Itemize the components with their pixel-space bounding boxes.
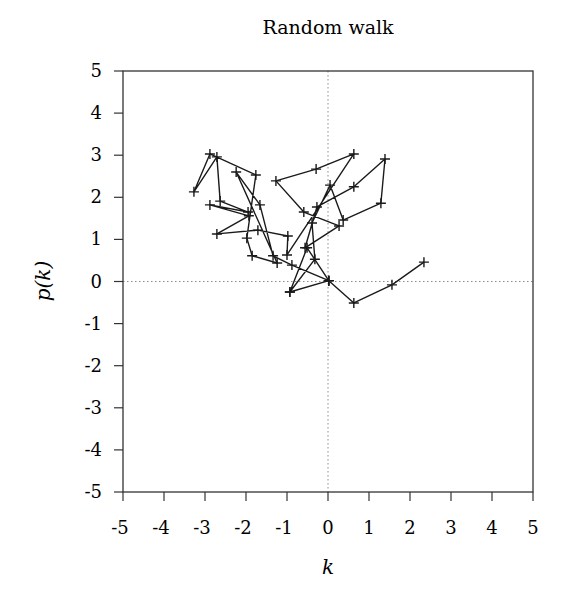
plus-marker-icon [247, 251, 257, 261]
plus-marker-icon [287, 260, 297, 270]
y-tick-label: 5 [91, 60, 102, 81]
plus-marker-icon [307, 218, 317, 228]
y-tick-label: 2 [91, 186, 102, 207]
x-tick-label: -4 [152, 517, 170, 538]
x-tick-label: 3 [445, 517, 456, 538]
x-tick-label: -2 [234, 517, 252, 538]
plus-marker-icon [231, 167, 241, 177]
plus-marker-icon [311, 164, 321, 174]
plus-marker-icon [215, 196, 225, 206]
y-axis-label: p(k) [31, 261, 55, 302]
y-tick-label: 3 [91, 144, 102, 165]
plus-marker-icon [283, 231, 293, 241]
walk-line [194, 154, 424, 303]
y-tick-label: -2 [84, 355, 102, 376]
plus-marker-icon [376, 198, 386, 208]
plus-marker-icon [189, 187, 199, 197]
x-axis-label: k [322, 555, 334, 579]
x-tick-label: 0 [322, 517, 333, 538]
axis-ticks [114, 71, 533, 501]
y-tick-label: -5 [84, 481, 102, 502]
plus-marker-icon [325, 180, 335, 190]
plus-marker-icon [419, 257, 429, 267]
y-tick-label: -3 [84, 397, 102, 418]
plus-marker-icon [349, 149, 359, 159]
chart: Random walk -5-4-3-2-1012345-5-4-3-2-101… [0, 0, 568, 595]
x-tick-label: 4 [486, 517, 497, 538]
y-tick-label: 4 [91, 102, 102, 123]
y-tick-label: -4 [84, 439, 102, 460]
y-tick-label: -1 [84, 313, 102, 334]
plus-marker-icon [255, 200, 265, 210]
x-tick-label: 1 [363, 517, 374, 538]
plus-marker-icon [251, 170, 261, 180]
plus-marker-icon [242, 233, 252, 243]
tick-labels: -5-4-3-2-1012345-5-4-3-2-1012345 [84, 60, 538, 538]
x-tick-label: 5 [527, 517, 538, 538]
y-tick-label: 0 [91, 271, 102, 292]
x-tick-label: -3 [193, 517, 211, 538]
plus-marker-icon [212, 229, 222, 239]
plus-marker-icon [282, 250, 292, 260]
random-walk-series [194, 154, 424, 303]
plus-marker-icon [205, 200, 215, 210]
chart-title: Random walk [262, 16, 394, 38]
x-tick-label: 2 [404, 517, 415, 538]
x-tick-label: -5 [111, 517, 129, 538]
x-tick-label: -1 [275, 517, 293, 538]
y-tick-label: 1 [91, 228, 102, 249]
